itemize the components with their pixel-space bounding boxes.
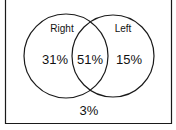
venn-diagram: Right Left 31% 51% 15% 3%	[0, 0, 176, 130]
left-only-value: 15%	[116, 52, 142, 67]
right-only-value: 31%	[42, 52, 68, 67]
intersection-value: 51%	[77, 52, 103, 67]
left-set-label: Left	[115, 23, 132, 34]
right-set-label: Right	[50, 23, 74, 34]
outside-value: 3%	[80, 103, 99, 118]
